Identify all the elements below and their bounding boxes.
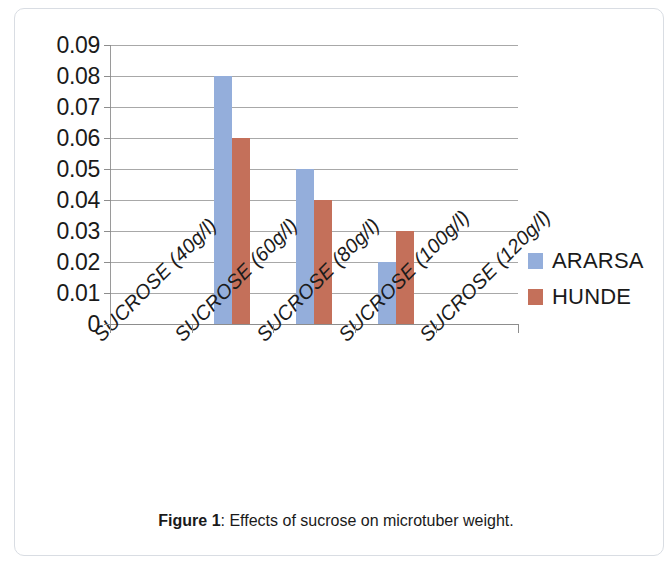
y-axis-tick — [104, 293, 111, 294]
gridline — [110, 45, 518, 46]
legend-label: ARARSA — [552, 248, 644, 274]
y-axis-tick-label: 0.06 — [14, 127, 100, 150]
x-axis-tick — [192, 324, 193, 333]
x-axis-line — [110, 324, 518, 325]
x-axis-tick — [436, 324, 437, 333]
y-axis-tick-label: 0.02 — [14, 251, 100, 274]
gridline — [110, 138, 518, 139]
legend-item: HUNDE — [528, 279, 668, 315]
y-axis-tick — [104, 169, 111, 170]
legend-swatch-icon — [528, 253, 543, 269]
y-axis-tick-label: 0.05 — [14, 158, 100, 181]
gridline — [110, 169, 518, 170]
y-axis-tick-label: 0.08 — [14, 65, 100, 88]
y-axis-tick-labels: 0.090.080.070.060.050.040.030.020.010 — [0, 45, 100, 326]
caption-body: Effects of sucrose on microtuber weight. — [229, 512, 513, 529]
gridline — [110, 76, 518, 77]
y-axis-tick — [104, 107, 111, 108]
x-axis-tick — [518, 324, 519, 333]
x-axis-tick — [355, 324, 356, 333]
y-axis-tick — [104, 200, 111, 201]
legend-label: HUNDE — [552, 284, 631, 310]
y-axis-tick — [104, 45, 111, 46]
y-axis-tick-label: 0.09 — [14, 34, 100, 57]
y-axis-tick — [104, 76, 111, 77]
y-axis-tick — [104, 231, 111, 232]
y-axis-tick-label: 0.07 — [14, 96, 100, 119]
gridline — [110, 107, 518, 108]
figure-caption: Figure 1: Effects of sucrose on microtub… — [0, 512, 672, 530]
y-axis-tick-label: 0.04 — [14, 189, 100, 212]
legend-swatch-icon — [528, 289, 543, 305]
y-axis-tick — [104, 262, 111, 263]
y-axis-tick-label: 0.03 — [14, 220, 100, 243]
y-axis-tick — [104, 138, 111, 139]
figure-number: Figure 1 — [158, 512, 220, 529]
x-axis-tick — [110, 324, 111, 333]
x-axis-tick — [273, 324, 274, 333]
y-axis-tick-label: 0.01 — [14, 282, 100, 305]
bar-chart: 0.090.080.070.060.050.040.030.020.010 SU… — [0, 0, 672, 505]
x-axis-tick-labels: SUCROSE (40g/l)SUCROSE (60g/l)SUCROSE (8… — [0, 330, 672, 505]
legend-item: ARARSA — [528, 243, 668, 279]
chart-legend: ARARSAHUNDE — [528, 243, 668, 315]
